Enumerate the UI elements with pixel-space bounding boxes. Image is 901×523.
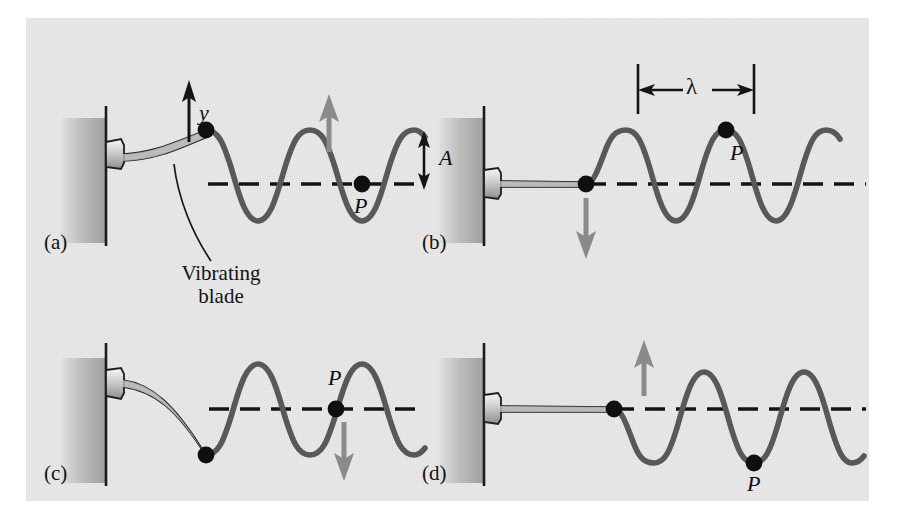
figure-panel: (a) y P A Vibrating blade (b) P λ (c) P … [26,18,869,501]
panel-b-p-label: P [730,140,743,166]
panel-c-blade-clamp [106,368,124,399]
panel-d-blade-dot [606,401,623,418]
panel-a-p-dot [354,176,371,193]
panel-b-blade-clamp [484,168,501,199]
panel-c-p-dot [328,401,345,418]
panel-a-amplitude-label: A [439,145,452,171]
panel-c-wall [61,343,106,486]
panel-a-callout-label: Vibrating blade [146,262,296,307]
panel-a-callout-leader [174,164,211,261]
figure-root: (a) y P A Vibrating blade (b) P λ (c) P … [0,0,901,523]
panel-d-vibrating-blade [500,406,614,412]
panel-label-a: (a) [44,230,67,255]
panel-a-y-label: y [199,100,209,126]
panel-d-p-dot [746,455,763,472]
panel-d-p-label: P [747,471,760,497]
panel-a-p-label: P [354,193,367,219]
panel-b-vibrating-blade [500,181,586,187]
panel-d-blade-clamp [484,393,501,424]
figure-drawing [26,18,869,501]
panel-b-wave-curve [586,130,840,221]
panel-a-y-axis-arrow [182,80,196,142]
panel-c-p-label: P [328,365,341,391]
panel-a-vibrating-blade [123,130,207,161]
panel-d-velocity-arrow-up [634,340,654,396]
panel-b-blade-dot [578,176,595,193]
panel-b-lambda-label: λ [686,74,697,100]
panel-c-blade-dot [198,447,215,464]
panel-a-wall [61,106,106,246]
panel-a-wave-curve [206,130,425,221]
panel-label-d: (d) [422,461,447,486]
panel-b-p-dot [718,122,735,139]
panel-b-wall [439,106,484,246]
panel-label-c: (c) [44,461,67,486]
panel-label-b: (b) [422,230,447,255]
panel-a-amplitude-marker [418,131,430,190]
panel-c-velocity-arrow-down [334,422,354,481]
panel-b-velocity-arrow-down [576,198,596,259]
panel-c-vibrating-blade [123,380,206,456]
panel-a-blade-clamp [106,139,124,169]
panel-d-wave-curve [614,372,864,463]
panel-a-velocity-arrow-up [319,94,339,152]
